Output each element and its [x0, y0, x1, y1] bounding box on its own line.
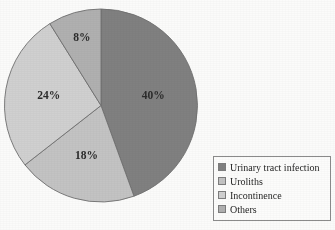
- figure-container: 40%18%24%8% Urinary tract infection Urol…: [0, 0, 335, 230]
- legend-swatch-uroliths: [218, 177, 226, 185]
- pie-chart-svg: 40%18%24%8%: [4, 5, 198, 206]
- legend-item-others[interactable]: Others: [218, 202, 327, 216]
- legend-item-incontinence[interactable]: Incontinence: [218, 188, 327, 202]
- pie-slice-label: 24%: [37, 89, 60, 101]
- legend-swatch-urinary-tract-infection: [218, 163, 226, 171]
- legend-item-urinary-tract-infection[interactable]: Urinary tract infection: [218, 160, 327, 174]
- legend-swatch-others: [218, 205, 226, 213]
- legend-label-uroliths: Uroliths: [230, 176, 263, 187]
- pie-slice-label: 8%: [73, 31, 90, 43]
- pie-slices: [5, 9, 198, 202]
- legend-swatch-incontinence: [218, 191, 226, 199]
- chart-legend: Urinary tract infection Uroliths Inconti…: [213, 156, 331, 221]
- pie-slice-label: 40%: [142, 89, 165, 101]
- legend-label-incontinence: Incontinence: [230, 190, 282, 201]
- legend-item-uroliths[interactable]: Uroliths: [218, 174, 327, 188]
- legend-label-urinary-tract-infection: Urinary tract infection: [230, 162, 319, 173]
- pie-slice-label: 18%: [75, 149, 98, 161]
- legend-label-others: Others: [230, 204, 257, 215]
- pie-chart: 40%18%24%8%: [4, 5, 198, 206]
